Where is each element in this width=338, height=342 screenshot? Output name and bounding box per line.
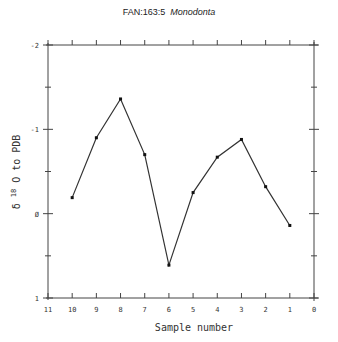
- x-tick-label: 3: [239, 306, 243, 314]
- data-line: [72, 99, 290, 265]
- data-point: [192, 191, 195, 194]
- data-point: [264, 185, 267, 188]
- x-tick-label: 8: [118, 306, 122, 314]
- x-tick-label: 2: [264, 306, 268, 314]
- data-point: [95, 136, 98, 139]
- x-axis-title: Sample number: [155, 322, 233, 333]
- x-tick-label: 9: [94, 306, 98, 314]
- tick-labels: 11109876543210-2-1Ø1: [31, 42, 317, 314]
- x-tick-label: 10: [68, 306, 76, 314]
- x-tick-label: 1: [288, 306, 292, 314]
- x-tick-label: 0: [312, 306, 316, 314]
- x-tick-label: 7: [143, 306, 147, 314]
- plot-axes: [46, 42, 318, 301]
- y-tick-label: Ø: [35, 211, 40, 219]
- data-point: [143, 153, 146, 156]
- data-point: [167, 264, 170, 267]
- tick-marks: [43, 40, 319, 298]
- x-tick-label: 4: [215, 306, 219, 314]
- y-tick-label: -1: [31, 126, 39, 134]
- x-tick-label: 5: [191, 306, 195, 314]
- x-tick-label: 6: [167, 306, 171, 314]
- data-point: [288, 224, 291, 227]
- line-chart: 11109876543210-2-1Ø1 Sample number δ 18 …: [0, 0, 338, 342]
- y-axis-title: δ 18 O to PDB: [7, 135, 22, 210]
- y-tick-label: -2: [31, 42, 39, 50]
- data-point: [240, 138, 243, 141]
- y-tick-label: 1: [35, 295, 39, 303]
- x-tick-label: 11: [44, 306, 52, 314]
- data-point: [71, 196, 74, 199]
- data-series: [71, 97, 292, 266]
- data-point: [216, 156, 219, 159]
- data-point: [119, 97, 122, 100]
